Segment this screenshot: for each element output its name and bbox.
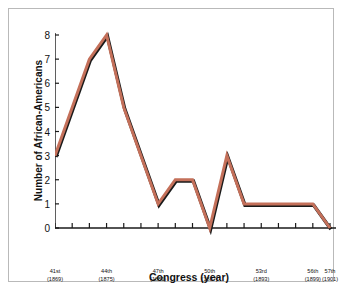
y-tick-label: 0: [44, 223, 50, 234]
x-tick-congress: 50th: [202, 267, 218, 275]
y-axis-title: Number of African-Americans: [33, 51, 44, 211]
x-tick-label: 53rd(1893): [253, 267, 269, 283]
x-tick-label: 41st(1869): [47, 267, 63, 283]
x-tick-congress: 56th: [305, 267, 321, 275]
chart-page: Number of African-Americans Congress (ye…: [0, 0, 344, 291]
plot-area: 876543210 41st(1869)44th(1875)47th(1881)…: [55, 31, 340, 240]
y-tick-label: 4: [44, 126, 50, 137]
x-tick-label: 47th(1881): [150, 267, 166, 283]
y-tick-label: 5: [44, 102, 50, 113]
x-tick-label: 50th(1887): [202, 267, 218, 283]
chart-frame: Number of African-Americans Congress (ye…: [8, 8, 334, 282]
y-tick-label: 1: [44, 198, 50, 209]
x-tick-congress: 57th: [322, 267, 338, 275]
x-tick-year: (1899): [305, 275, 321, 283]
x-tick-year: (1881): [150, 275, 166, 283]
x-tick-congress: 41st: [47, 267, 63, 275]
y-tick-label: 6: [44, 78, 50, 89]
x-tick-label: 57th(1901): [322, 267, 338, 283]
x-tick-congress: 44th: [98, 267, 114, 275]
x-tick-year: (1875): [98, 275, 114, 283]
x-tick-year: (1887): [202, 275, 218, 283]
x-tick-label: 56th(1899): [305, 267, 321, 283]
x-tick-label: 44th(1875): [98, 267, 114, 283]
y-tick-label: 8: [44, 30, 50, 41]
x-tick-year: (1901): [322, 275, 338, 283]
x-tick-year: (1869): [47, 275, 63, 283]
x-axis-title: Congress (year): [49, 271, 329, 283]
x-tick-congress: 53rd: [253, 267, 269, 275]
y-tick-label: 3: [44, 150, 50, 161]
x-tick-congress: 47th: [150, 267, 166, 275]
line-chart-svg: [55, 31, 340, 240]
y-tick-label: 7: [44, 54, 50, 65]
y-tick-label: 2: [44, 174, 50, 185]
x-tick-year: (1893): [253, 275, 269, 283]
